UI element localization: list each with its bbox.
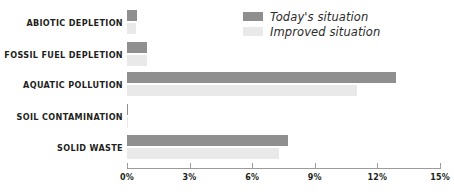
bar-today-3 <box>127 104 128 115</box>
x-tick-mark <box>127 163 128 169</box>
x-tick-label: 6% <box>245 173 259 182</box>
chart-row: FOSSIL FUEL DEPLETION <box>0 40 454 70</box>
bar-today-1 <box>127 42 147 53</box>
x-axis-line <box>127 168 440 169</box>
x-tick-mark <box>377 163 378 169</box>
bar-improved-3 <box>127 117 128 128</box>
legend-label-today: Today's situation <box>270 10 368 24</box>
chart-row: AQUATIC POLLUTION <box>0 70 454 100</box>
category-label: FOSSIL FUEL DEPLETION <box>0 40 123 70</box>
x-tick-label: 3% <box>183 173 197 182</box>
category-label: AQUATIC POLLUTION <box>0 70 123 100</box>
x-tick-mark <box>315 163 316 169</box>
x-tick-mark <box>440 163 441 169</box>
bar-chart: ABIOTIC DEPLETION FOSSIL FUEL DEPLETION … <box>0 0 454 195</box>
category-label: SOLID WASTE <box>0 133 123 163</box>
legend-swatch-improved <box>243 27 263 36</box>
bar-today-0 <box>127 10 137 21</box>
chart-row: SOLID WASTE <box>0 133 454 163</box>
x-tick-mark <box>190 163 191 169</box>
category-label: ABIOTIC DEPLETION <box>0 8 123 38</box>
bar-today-2 <box>127 72 396 83</box>
x-tick-label: 9% <box>308 173 322 182</box>
legend-item-improved: Improved situation <box>243 24 448 39</box>
legend-label-improved: Improved situation <box>270 25 380 39</box>
x-tick-label: 12% <box>368 173 388 182</box>
bar-improved-2 <box>127 85 357 96</box>
legend-swatch-today <box>243 12 263 21</box>
bar-improved-0 <box>127 23 136 34</box>
legend-item-today: Today's situation <box>243 9 448 24</box>
bar-today-4 <box>127 135 288 146</box>
x-tick-label: 0% <box>120 173 134 182</box>
category-label: SOIL CONTAMINATION <box>0 102 123 132</box>
bar-improved-4 <box>127 148 279 159</box>
legend: Today's situation Improved situation <box>243 9 448 39</box>
chart-row: SOIL CONTAMINATION <box>0 102 454 132</box>
x-tick-label: 15% <box>430 173 450 182</box>
bar-improved-1 <box>127 55 147 66</box>
x-tick-mark <box>252 163 253 169</box>
